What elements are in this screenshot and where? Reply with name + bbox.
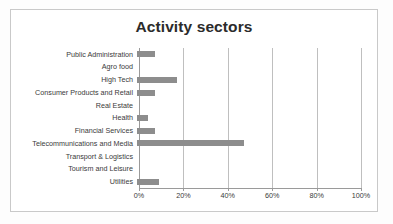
x-tick-label: 60% [265, 191, 279, 200]
bar-row: Telecommunications and Media [11, 137, 361, 150]
category-label: Tourism and Leisure [11, 165, 137, 172]
bar-track [137, 137, 359, 150]
bar-track [137, 73, 359, 86]
category-label: Health [11, 114, 137, 121]
bar-row: Tourism and Leisure [11, 162, 361, 175]
category-label: Telecommunications and Media [11, 140, 137, 147]
x-axis-line [139, 188, 361, 189]
x-tick-label: 20% [176, 191, 190, 200]
gridline-100pct [361, 48, 362, 188]
bar-row: Consumer Products and Retail [11, 86, 361, 99]
bar-row: Utilities [11, 175, 361, 188]
bar [137, 90, 155, 96]
bar [137, 51, 155, 57]
bar-track [137, 124, 359, 137]
chart-title: Activity sectors [11, 18, 377, 36]
bar-rows: Public AdministrationAgro foodHigh TechC… [11, 48, 361, 188]
category-label: Real Estate [11, 102, 137, 109]
category-label: Consumer Products and Retail [11, 89, 137, 96]
category-label: Financial Services [11, 127, 137, 134]
category-label: High Tech [11, 76, 137, 83]
bar [137, 140, 244, 146]
page-background: Activity sectors Public AdministrationAg… [0, 0, 393, 224]
bar-row: Transport & Logistics [11, 150, 361, 163]
bar-row: Agro food [11, 61, 361, 74]
bar [137, 128, 155, 134]
category-label: Utilities [11, 178, 137, 185]
chart-frame: Activity sectors Public AdministrationAg… [10, 9, 378, 212]
category-label: Public Administration [11, 51, 137, 58]
bar-row: High Tech [11, 73, 361, 86]
bar-track [137, 150, 359, 163]
category-label: Transport & Logistics [11, 153, 137, 160]
x-axis-ticks: 0%20%40%60%80%100% [139, 191, 361, 203]
x-tick-label: 40% [221, 191, 235, 200]
category-label: Agro food [11, 63, 137, 70]
bar-track [137, 162, 359, 175]
x-tick-label: 100% [352, 191, 370, 200]
bar-row: Financial Services [11, 124, 361, 137]
bar-track [137, 175, 359, 188]
bar-track [137, 48, 359, 61]
bar-row: Health [11, 112, 361, 125]
bar-track [137, 61, 359, 74]
bar [137, 179, 159, 185]
bar-row: Real Estate [11, 99, 361, 112]
bar-row: Public Administration [11, 48, 361, 61]
x-tick-label: 80% [309, 191, 323, 200]
bar [137, 77, 177, 83]
bar-track [137, 99, 359, 112]
bar [137, 115, 148, 121]
bar-track [137, 86, 359, 99]
x-tick-label: 0% [134, 191, 144, 200]
bar-track [137, 112, 359, 125]
